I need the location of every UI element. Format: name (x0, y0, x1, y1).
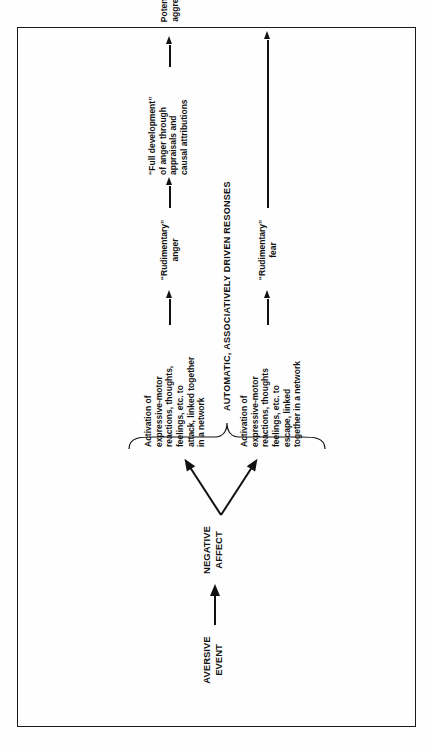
node-rudimentary-anger: “Rudimentary” anger (159, 211, 180, 289)
arrow-fear-network-to-rudimentary-fear (263, 291, 273, 325)
arrow-rudimentary-anger-to-full-development (165, 178, 175, 208)
node-rudimentary-fear: “Rudimentary” fear (257, 211, 278, 289)
arrow-anger-network-to-rudimentary-anger (165, 291, 175, 325)
arrow-fork-to-fear-network (215, 456, 261, 518)
figure-page: AVERSIVE EVENT NEGATIVE AFFECT Activatio… (0, 0, 433, 753)
rotated-diagram-stage: AVERSIVE EVENT NEGATIVE AFFECT Activatio… (31, 57, 403, 697)
arrow-rudimentary-fear-long (263, 32, 273, 208)
node-full-development: “Full development” of anger through appr… (147, 71, 190, 175)
node-negative-affect: NEGATIVE AFFECT (201, 519, 225, 581)
figure-caption: AUTOMATIC, ASSOCIATIVELY DRIVEN RESONSES (222, 91, 233, 411)
figure-border: AVERSIVE EVENT NEGATIVE AFFECT Activatio… (17, 27, 416, 727)
arrow-full-development-to-potential-aggression (165, 37, 175, 67)
node-aversive-event: AVERSIVE EVENT (201, 629, 225, 691)
arrow-aversive-to-negative (209, 585, 221, 625)
node-potential-aggression: Potential to aggression (159, 0, 180, 35)
grouping-bracket (127, 417, 327, 451)
